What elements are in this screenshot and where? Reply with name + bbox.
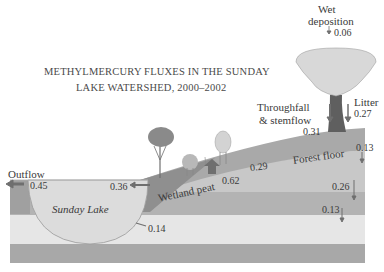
diagram-title-line2: LAKE WATERSHED, 2000–2002 [76,82,226,93]
litter-label: Litter [354,96,378,108]
outflow-label: Outflow [8,168,45,180]
soil-deep-down-value: 0.13 [322,204,340,215]
wet-deposition-label-1: Wet [318,3,335,15]
wet-deposition-value: 0.06 [334,27,352,38]
dark-tree-crown [148,127,174,147]
wet-deposition-label-2: deposition [308,15,354,27]
medium-tree-crown [182,154,198,170]
throughfall-label-1: Throughfall [257,101,310,113]
litter-value: 0.27 [354,108,372,119]
forest-floor-down-value: 0.13 [356,142,374,153]
watershed-diagram [0,0,384,272]
large-tree-crown [296,48,376,96]
outflow-value: 0.45 [30,180,48,191]
pale-tree-crown [215,131,231,153]
lake-sediment-value: 0.14 [148,223,166,234]
throughfall-value: 0.31 [303,126,321,137]
wetland-peat-up-value: 0.62 [222,175,240,186]
bedrock-layer [10,243,365,263]
sunday-lake-label: Sunday Lake [52,203,109,215]
wetland-to-lake-value: 0.36 [110,181,128,192]
diagram-title-line1: METHYLMERCURY FLUXES IN THE SUNDAY [44,66,270,77]
soil-mid-down-value: 0.26 [332,181,350,192]
throughfall-label-2: & stemflow [259,114,311,126]
